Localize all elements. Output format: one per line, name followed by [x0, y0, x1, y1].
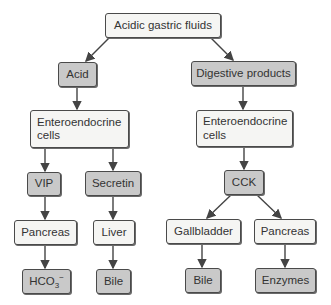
flow-diagram: Acidic gastric fluids Acid Digestive pro…	[0, 0, 331, 305]
node-label: CCK	[232, 176, 256, 189]
node-label: Enteroendocrine cells	[203, 115, 292, 141]
node-pancreas-left: Pancreas	[14, 220, 77, 245]
node-acid: Acid	[58, 62, 97, 87]
node-bile-left: Bile	[96, 269, 131, 294]
hco3-subscript: 3	[55, 281, 59, 290]
node-label: Enteroendocrine cells	[37, 116, 128, 142]
node-label: Liver	[102, 226, 127, 239]
node-gallbladder: Gallbladder	[166, 219, 241, 244]
node-pancreas-right: Pancreas	[254, 219, 316, 244]
hco3-superscript: −	[59, 273, 64, 282]
node-digestive-products: Digestive products	[191, 61, 296, 86]
node-label: VIP	[35, 177, 54, 190]
node-label: Digestive products	[196, 67, 291, 80]
node-label: Enzymes	[262, 274, 309, 287]
node-liver: Liver	[93, 220, 135, 245]
node-label: Bile	[193, 274, 212, 287]
diagram-arrows	[0, 0, 331, 305]
node-label: Acid	[66, 68, 88, 81]
node-label: Bile	[104, 275, 123, 288]
node-enzymes: Enzymes	[255, 268, 316, 293]
node-label: Secretin	[92, 177, 134, 190]
node-label: Acidic gastric fluids	[114, 19, 212, 32]
node-secretin: Secretin	[85, 171, 141, 196]
node-hco3: HCO3−	[22, 269, 71, 294]
node-cck: CCK	[224, 170, 264, 195]
node-label: Pancreas	[261, 225, 310, 238]
node-label: Gallbladder	[174, 225, 233, 238]
node-label: HCO3−	[29, 273, 64, 290]
hco3-base: HCO	[29, 275, 55, 287]
node-enteroendocrine-cells-left: Enteroendocrine cells	[30, 110, 129, 148]
node-label: Pancreas	[21, 226, 70, 239]
node-bile-right: Bile	[185, 268, 221, 293]
node-vip: VIP	[27, 172, 61, 196]
node-enteroendocrine-cells-right: Enteroendocrine cells	[196, 110, 293, 147]
node-acidic-gastric-fluids: Acidic gastric fluids	[105, 13, 221, 38]
